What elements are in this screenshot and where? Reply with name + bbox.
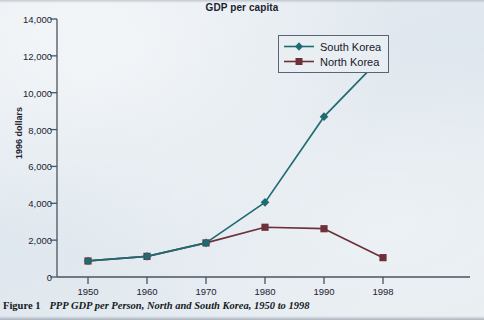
chart-legend: South Korea North Korea	[278, 35, 389, 73]
legend-label-south-korea: South Korea	[320, 41, 381, 53]
figure-caption-text: PPP GDP per Person, North and South Kore…	[49, 300, 309, 311]
plot-svg	[0, 0, 484, 296]
series-line-south-korea	[88, 56, 383, 261]
legend-swatch-north-korea	[284, 55, 314, 68]
legend-swatch-south-korea	[284, 40, 314, 53]
scan-edge-bottom	[0, 316, 484, 320]
legend-item-south-korea: South Korea	[284, 39, 381, 54]
figure-caption: Figure 1PPP GDP per Person, North and So…	[3, 300, 473, 311]
legend-label-north-korea: North Korea	[320, 56, 379, 68]
data-point-marker	[379, 254, 386, 261]
series-line-north-korea	[88, 227, 383, 261]
data-point-marker	[261, 224, 268, 231]
chart-area: GDP per capita 1996 dollars 02,0004,0006…	[0, 0, 484, 296]
legend-item-north-korea: North Korea	[284, 54, 381, 69]
figure-caption-label: Figure 1	[3, 300, 40, 311]
data-point-marker	[320, 225, 327, 232]
